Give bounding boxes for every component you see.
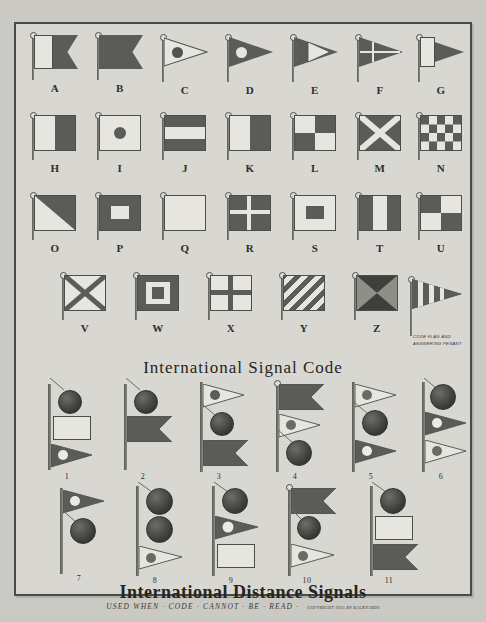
distance-signal-label-6: 6 bbox=[418, 472, 464, 481]
signal-swallowtail-flag bbox=[373, 544, 419, 574]
flag-label-N: N bbox=[418, 162, 464, 174]
flag-shape-T bbox=[359, 195, 401, 231]
signal-square-flag bbox=[375, 516, 413, 540]
signal-ball bbox=[297, 516, 321, 540]
flag-label-P: P bbox=[97, 242, 143, 254]
flag-label-Y: Y bbox=[281, 322, 327, 334]
flag-label-F: F bbox=[357, 84, 403, 96]
flag-disc bbox=[114, 127, 126, 139]
signal-ball bbox=[58, 390, 82, 414]
signal-pennant bbox=[215, 516, 259, 544]
flag-shape-Q bbox=[164, 195, 206, 231]
flag-label-A: A bbox=[32, 82, 78, 94]
flag-label-G: G bbox=[418, 84, 464, 96]
flag-label-J: J bbox=[162, 162, 208, 174]
signal-pennant bbox=[355, 440, 397, 468]
signal-ball bbox=[362, 410, 388, 436]
signal-ball bbox=[70, 518, 96, 544]
flag-label-O: O bbox=[32, 242, 78, 254]
flag-label-H: H bbox=[32, 162, 78, 174]
signal-pennant bbox=[139, 546, 183, 574]
flag-shape-F bbox=[359, 37, 403, 67]
flag-label-S: S bbox=[292, 242, 338, 254]
flag-label-C: C bbox=[162, 84, 208, 96]
flag-shape-I bbox=[99, 115, 141, 151]
distance-signals-subtitle: USED WHEN · CODE · CANNOT · BE · READ ·C… bbox=[18, 602, 468, 611]
flag-label-Q: Q bbox=[162, 242, 208, 254]
flag-shape-X bbox=[210, 275, 252, 311]
flag-shape-P bbox=[99, 195, 141, 231]
flag-label-T: T bbox=[357, 242, 403, 254]
copyright-text: COPYRIGHT 1925 BY BACKYARDS bbox=[307, 605, 379, 610]
flag-shape-K bbox=[229, 115, 271, 151]
flag-label-U: U bbox=[418, 242, 464, 254]
flag-shape-U bbox=[420, 195, 462, 231]
flag-label-X: X bbox=[208, 322, 254, 334]
signal-ball bbox=[210, 412, 234, 436]
flag-shape-W bbox=[137, 275, 179, 311]
flag-shape-E bbox=[294, 37, 338, 67]
code-pennant-note: CODE FLAG AND ANSWERING PENANT bbox=[413, 334, 475, 347]
flag-label-M: M bbox=[357, 162, 403, 174]
signal-ball bbox=[134, 390, 158, 414]
signal-ball bbox=[146, 488, 173, 515]
flag-shape-C bbox=[164, 37, 208, 67]
flag-shape-O bbox=[34, 195, 76, 231]
section-title-distance-signals: International Distance Signals bbox=[18, 582, 468, 603]
subtitle-text: USED WHEN · CODE · CANNOT · BE · READ · bbox=[106, 602, 299, 611]
signal-swallowtail-flag bbox=[279, 384, 325, 414]
flag-shape-S bbox=[294, 195, 336, 231]
flag-disc bbox=[236, 47, 247, 58]
flag-label-D: D bbox=[227, 84, 273, 96]
signal-square-flag bbox=[53, 416, 91, 440]
signal-ball bbox=[430, 384, 456, 410]
flag-shape-J bbox=[164, 115, 206, 151]
signal-pennant bbox=[51, 444, 93, 472]
signal-swallowtail-flag bbox=[203, 440, 249, 470]
flag-shape-V bbox=[64, 275, 106, 311]
flag-label-K: K bbox=[227, 162, 273, 174]
section-title-signal-code: International Signal Code bbox=[18, 358, 468, 378]
flag-shape-Z bbox=[356, 275, 398, 311]
flag-shape-M bbox=[359, 115, 401, 151]
distance-signal-label-3: 3 bbox=[196, 472, 242, 481]
distance-signal-label-4: 4 bbox=[272, 472, 318, 481]
signal-pennant bbox=[291, 544, 335, 572]
signal-pennant bbox=[425, 440, 467, 468]
flag-label-W: W bbox=[135, 322, 181, 334]
signal-square-flag bbox=[217, 544, 255, 568]
flag-shape-L bbox=[294, 115, 336, 151]
flag-label-E: E bbox=[292, 84, 338, 96]
flag-shape-code-pennant bbox=[412, 279, 462, 309]
distance-signal-label-5: 5 bbox=[348, 472, 394, 481]
chart-sheet: A B C D bbox=[18, 26, 468, 592]
signal-ball bbox=[146, 516, 173, 543]
distance-signal-label-1: 1 bbox=[44, 472, 90, 481]
signal-ball bbox=[286, 440, 312, 466]
flag-shape-B bbox=[99, 35, 143, 69]
chart-page: A B C D bbox=[0, 0, 486, 622]
flag-shape-N bbox=[420, 115, 462, 151]
flag-label-R: R bbox=[227, 242, 273, 254]
flag-shape-G bbox=[420, 37, 464, 67]
flag-label-L: L bbox=[292, 162, 338, 174]
distance-signal-label-2: 2 bbox=[120, 472, 166, 481]
flag-shape-Y bbox=[283, 275, 325, 311]
flag-label-V: V bbox=[62, 322, 108, 334]
flag-shape-D bbox=[229, 37, 273, 67]
flag-label-Z: Z bbox=[354, 322, 400, 334]
flag-shape-A bbox=[34, 35, 78, 69]
signal-ball bbox=[222, 488, 248, 514]
flag-shape-R bbox=[229, 195, 271, 231]
flag-label-I: I bbox=[97, 162, 143, 174]
flag-label-B: B bbox=[97, 82, 143, 94]
signal-ball bbox=[380, 488, 406, 514]
flag-shape-H bbox=[34, 115, 76, 151]
signal-pennant bbox=[425, 412, 467, 440]
signal-swallowtail-flag bbox=[127, 416, 173, 446]
flag-disc bbox=[172, 47, 183, 58]
